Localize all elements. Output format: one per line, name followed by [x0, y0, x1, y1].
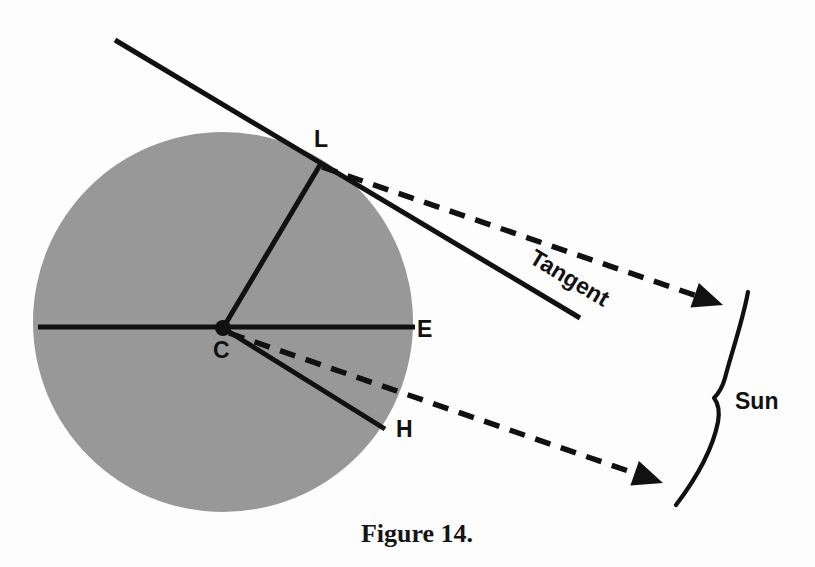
point-label-h: H	[396, 416, 413, 442]
point-label-c: C	[213, 337, 230, 363]
arrowhead-upper	[690, 283, 723, 308]
point-label-e: E	[417, 316, 432, 342]
point-label-l: L	[314, 126, 328, 152]
figure-canvas: L C E H Tangent Sun Figure 14.	[0, 0, 815, 567]
figure-container: L C E H Tangent Sun Figure 14.	[0, 0, 815, 567]
tangent-text-label: Tangent	[525, 244, 614, 312]
center-point-dot-c	[215, 320, 231, 336]
figure-caption: Figure 14.	[361, 519, 473, 548]
arrowhead-lower	[630, 461, 663, 486]
sun-text-label: Sun	[735, 388, 778, 414]
